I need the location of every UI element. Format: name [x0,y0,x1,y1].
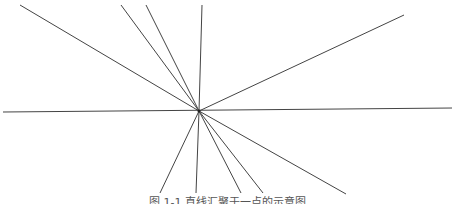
line-upper-left-mid [121,5,199,111]
figure-caption: 图 1-1 直线汇聚于一点的示意图 [0,196,455,204]
line-lower-right-far [199,111,346,194]
line-lower-vertical [196,111,199,193]
line-lower-left [160,111,199,193]
line-lower-right-mid [199,111,263,193]
lines-diagram [0,0,455,204]
line-horizontal [3,108,452,112]
line-upper-right [199,15,404,111]
line-upper-vertical [199,5,202,111]
radiating-lines-figure: 图 1-1 直线汇聚于一点的示意图 [0,0,455,204]
center-point [198,110,201,113]
